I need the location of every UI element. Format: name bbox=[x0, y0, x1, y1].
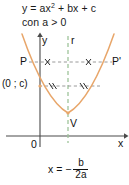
formula-fraction: b 2a bbox=[73, 158, 88, 180]
formula-numerator: b bbox=[76, 158, 86, 169]
parabola-figure: y = ax2 + bx + c con a > 0 bbox=[0, 0, 129, 185]
symmetry-axis-formula: x = − b 2a bbox=[48, 158, 88, 180]
formula-lhs: x = − bbox=[48, 164, 71, 175]
point-pprime-label: P' bbox=[112, 56, 121, 67]
x-axis-arrow bbox=[124, 133, 129, 139]
y-intercept-point bbox=[38, 84, 41, 87]
origin-label: 0 bbox=[31, 139, 37, 150]
symmetry-axis-label: r bbox=[71, 35, 75, 46]
formula-denominator: 2a bbox=[73, 170, 88, 181]
tick-single-right bbox=[86, 59, 91, 65]
vertex-point bbox=[66, 111, 69, 114]
y-axis-label: y bbox=[42, 35, 47, 46]
y-intercept-label: (0 ; c) bbox=[2, 79, 28, 89]
x-axis-label: x bbox=[118, 138, 123, 149]
vertex-label: V bbox=[70, 118, 77, 129]
point-p-label: P bbox=[20, 56, 27, 67]
